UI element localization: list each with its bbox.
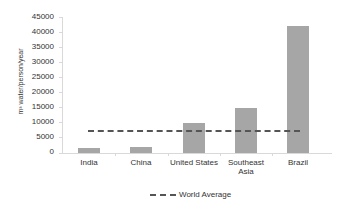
y-tick: 35000 <box>14 43 54 51</box>
y-tick: 30000 <box>14 58 54 66</box>
y-tick-mark <box>59 17 62 18</box>
world-average-line <box>88 130 300 132</box>
y-tick-mark <box>59 137 62 138</box>
x-tick-mark <box>115 153 116 156</box>
x-axis <box>62 153 332 154</box>
x-tick-mark <box>168 153 169 156</box>
y-tick-mark <box>59 153 62 154</box>
legend: World Average <box>150 190 231 199</box>
x-tick-mark <box>220 153 221 156</box>
y-tick-mark <box>59 107 62 108</box>
dashed-line-swatch-icon <box>150 194 176 196</box>
y-tick-mark <box>59 62 62 63</box>
y-tick-mark <box>59 47 62 48</box>
bar <box>78 148 100 153</box>
y-tick: 0 <box>14 148 54 156</box>
y-tick: 25000 <box>14 73 54 81</box>
y-tick: 15000 <box>14 103 54 111</box>
bar-chart: m³ water/person/year 45000 40000 35000 3… <box>0 0 340 211</box>
y-tick: 10000 <box>14 118 54 126</box>
y-tick: 20000 <box>14 88 54 96</box>
category-label: Brazil <box>271 158 325 167</box>
x-tick-mark <box>272 153 273 156</box>
legend-label: World Average <box>179 190 231 199</box>
y-tick-mark <box>59 92 62 93</box>
y-tick: 5000 <box>14 133 54 141</box>
y-tick-mark <box>59 122 62 123</box>
y-axis <box>62 17 63 153</box>
bar <box>287 26 309 153</box>
category-label: China <box>114 158 168 167</box>
category-label: India <box>62 158 116 167</box>
category-label: United States <box>167 158 221 167</box>
y-tick: 45000 <box>14 13 54 21</box>
bar <box>130 147 152 153</box>
y-tick: 40000 <box>14 28 54 36</box>
y-tick-mark <box>59 77 62 78</box>
bar <box>183 123 205 153</box>
category-label: SoutheastAsia <box>219 158 273 176</box>
y-tick-mark <box>59 32 62 33</box>
